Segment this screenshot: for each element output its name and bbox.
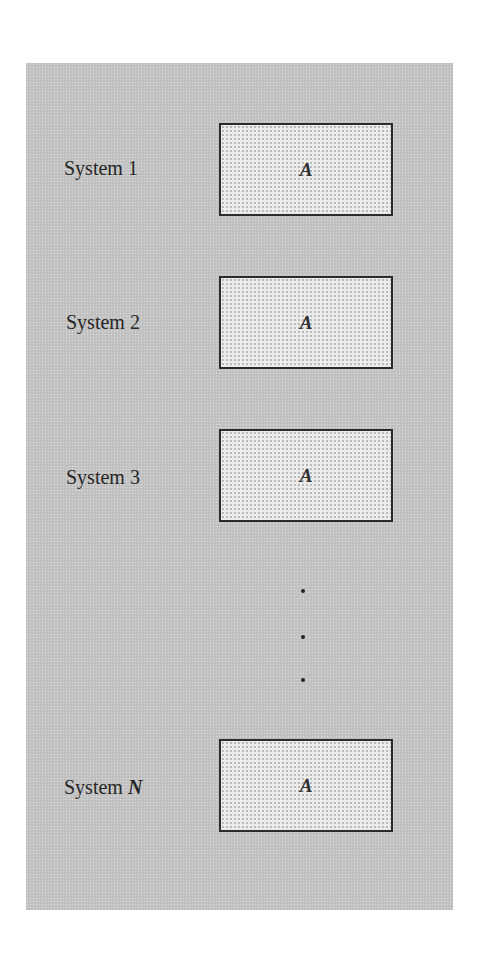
ellipsis-dot-3: [301, 678, 305, 682]
system-1-box-label: A: [300, 159, 313, 181]
system-3-box: A: [219, 429, 393, 522]
system-2-box: A: [219, 276, 393, 369]
system-1-box: A: [219, 123, 393, 216]
ensemble-panel: System 1 A System 2 A System 3 A System …: [26, 63, 453, 910]
system-n-variable: N: [128, 776, 142, 798]
system-n-label: System N: [64, 777, 142, 797]
system-1-label: System 1: [64, 158, 138, 178]
system-2-box-label: A: [300, 312, 313, 334]
system-3-label: System 3: [66, 467, 140, 487]
system-n-box: A: [219, 739, 393, 832]
ellipsis-dot-2: [301, 635, 305, 639]
system-n-prefix: System: [64, 776, 123, 798]
system-3-box-label: A: [300, 465, 313, 487]
system-2-label: System 2: [66, 312, 140, 332]
ellipsis-dot-1: [301, 589, 305, 593]
system-n-box-label: A: [300, 775, 313, 797]
